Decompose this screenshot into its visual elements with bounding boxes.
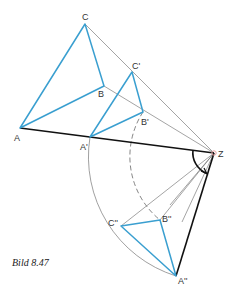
label-z: Z <box>218 149 224 159</box>
triangle-a2b2c2 <box>121 220 176 276</box>
ray-z-b2 <box>160 153 214 220</box>
label-b1: B' <box>141 117 149 127</box>
axis-z-a2 <box>176 153 214 276</box>
label-b: B <box>98 89 104 99</box>
rotation-arrow-icon <box>201 168 207 174</box>
triangles <box>20 24 176 276</box>
label-c: C <box>82 12 89 22</box>
label-a2: A'' <box>178 276 188 286</box>
diagram-canvas: A B C A' B' C' A'' B'' C'' Z Bild 8.47 <box>0 0 231 290</box>
arc-b1-b2-dashed <box>130 112 160 220</box>
arc-a1-a2 <box>88 137 176 276</box>
ray-z-b <box>104 86 214 153</box>
label-b2: B'' <box>162 214 172 224</box>
ray-z-extra <box>170 153 214 205</box>
label-c1: C' <box>132 61 140 71</box>
label-a: A <box>14 133 20 143</box>
figure-caption: Bild 8.47 <box>12 257 50 268</box>
label-c2: C'' <box>108 218 118 228</box>
axis-a-z <box>20 128 214 153</box>
ray-z-c <box>85 24 214 153</box>
label-a1: A' <box>80 142 88 152</box>
ray-z-a2-thin <box>182 153 214 222</box>
rotation-angle-arc <box>193 150 206 173</box>
triangle-abc <box>20 24 104 128</box>
construction-rays <box>85 24 214 226</box>
